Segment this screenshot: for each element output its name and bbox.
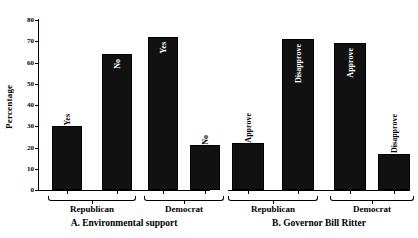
group-label: Republican <box>38 204 146 214</box>
bar-chart-figure: Percentage 01020304050607080 YesNoYesNo … <box>0 0 418 238</box>
bar-value-label: Disapprove <box>390 114 399 153</box>
panel-a: YesNoYesNo RepublicanDemocrat A. Environ… <box>38 0 210 238</box>
bar: Approve <box>232 143 264 190</box>
y-tick-label-40: 40 <box>18 102 34 109</box>
x-tick-mark <box>205 190 206 194</box>
bar-value-label: No <box>201 135 210 145</box>
y-tick-label-20: 20 <box>18 144 34 151</box>
y-tick-label-80: 80 <box>18 17 34 24</box>
y-tick-label-30: 30 <box>18 123 34 130</box>
bar-value-label: Yes <box>63 114 72 126</box>
bar: Disapprove <box>282 39 314 190</box>
y-tick-label-10: 10 <box>18 165 34 172</box>
y-axis-label: Percentage <box>2 62 16 152</box>
y-tick-label-60: 60 <box>18 59 34 66</box>
y-axis-ticks: 01020304050607080 <box>18 14 34 196</box>
panel-b-plot-area: ApproveDisapproveApproveDisapprove <box>228 19 410 191</box>
y-tick-label-50: 50 <box>18 80 34 87</box>
x-tick-mark <box>394 190 395 194</box>
x-tick-mark <box>350 190 351 194</box>
x-tick-mark <box>117 190 118 194</box>
panel-b-caption: B. Governor Bill Ritter <box>228 218 410 228</box>
panel-a-baseline <box>38 190 210 191</box>
bar: Approve <box>334 43 366 190</box>
group-label: Democrat <box>320 204 418 214</box>
bar: No <box>190 145 220 190</box>
bar-value-label: Approve <box>346 48 355 78</box>
x-tick-mark <box>298 190 299 194</box>
y-tick-label-70: 70 <box>18 38 34 45</box>
y-tick-label-0: 0 <box>18 187 34 194</box>
x-tick-mark <box>163 190 164 194</box>
panel-a-plot-area: YesNoYesNo <box>38 19 210 191</box>
bar-value-label: Disapprove <box>294 44 303 83</box>
x-tick-mark <box>67 190 68 194</box>
bar-value-label: Approve <box>244 113 253 143</box>
bar: Yes <box>148 37 178 190</box>
panel-a-caption: A. Environmental support <box>38 218 210 228</box>
bar: No <box>102 54 132 190</box>
bar: Yes <box>52 126 82 190</box>
bar-value-label: No <box>113 59 122 69</box>
bar: Disapprove <box>378 154 410 190</box>
panel-b: ApproveDisapproveApproveDisapprove Repub… <box>228 0 410 238</box>
group-label: Republican <box>218 204 328 214</box>
x-tick-mark <box>248 190 249 194</box>
bar-value-label: Yes <box>159 42 168 54</box>
panel-b-baseline <box>228 190 410 191</box>
